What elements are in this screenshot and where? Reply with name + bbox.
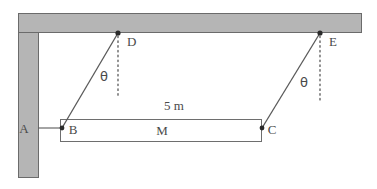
- label-mass-m: M: [156, 123, 168, 138]
- label-theta-right: θ: [300, 75, 308, 90]
- label-c: C: [268, 122, 277, 137]
- wall-corner-fill: [19, 14, 38, 32]
- string-bd: [62, 33, 118, 128]
- wall-vertical-column: [19, 14, 39, 178]
- label-b: B: [69, 122, 78, 137]
- point-marker-d: [115, 30, 120, 35]
- label-a: A: [19, 121, 29, 136]
- wall-structure: [19, 14, 362, 178]
- string-ce: [262, 33, 320, 128]
- ceiling-horizontal-beam: [19, 14, 362, 33]
- physics-diagram-figure: A B C D E M 5 m θ θ: [0, 0, 377, 189]
- label-theta-left: θ: [100, 69, 108, 84]
- label-e: E: [329, 34, 337, 49]
- label-d: D: [127, 34, 136, 49]
- diagram-canvas: A B C D E M 5 m θ θ: [0, 0, 377, 189]
- point-marker-c: [260, 126, 265, 131]
- label-length-5m: 5 m: [164, 98, 184, 113]
- point-marker-b: [60, 126, 65, 131]
- point-marker-e: [317, 30, 322, 35]
